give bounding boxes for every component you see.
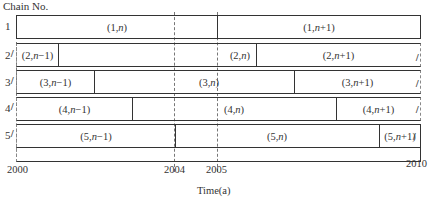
segment-3-n-minus-1: (3,n−1) — [17, 71, 94, 93]
chain-number-3: 3 — [5, 76, 15, 88]
tick-2004: 2004 — [164, 164, 185, 175]
chain-number-2: 2 — [5, 49, 15, 61]
chain-row-2: (2,n−1) (2,n) (2,n+1) — [16, 43, 421, 67]
chain-row-5: (5,n−1) (5,n) (5,n+1) — [16, 124, 421, 148]
segment-5-n-minus-1: (5,n−1) — [17, 125, 175, 147]
segment-3-n-plus-1: (3,n+1) — [294, 71, 421, 93]
diagram-title: Chain No. — [3, 0, 48, 12]
chain-number-5: 5 — [5, 129, 15, 141]
segment-5-n: (5,n) — [175, 125, 379, 147]
timeline-frame — [16, 148, 421, 162]
segment-2-n-minus-1: (2,n−1) — [17, 44, 58, 66]
segment-3-n: (3,n) — [94, 71, 294, 93]
segment-1-n-plus-1: (1,n+1) — [217, 16, 421, 38]
segment-4-n-plus-1: (4,n+1) — [336, 98, 421, 120]
chain-row-4: (4,n−1) (4,n) (4,n+1) — [16, 97, 421, 121]
chain-row-3: (3,n−1) (3,n) (3,n+1) — [16, 70, 421, 94]
segment-2-n: (2,n) — [58, 44, 256, 66]
segment-4-n: (4,n) — [132, 98, 336, 120]
segment-5-n-plus-1: (5,n+1) — [379, 125, 421, 147]
tick-2010: 2010 — [406, 158, 427, 169]
tick-2005: 2005 — [206, 164, 227, 175]
chain-number-1: 1 — [5, 20, 15, 32]
chain-row-1: (1,n) (1,n+1) — [16, 15, 421, 39]
chain-number-4: 4 — [5, 102, 15, 114]
x-axis-title: Time(a) — [197, 185, 230, 196]
segment-4-n-minus-1: (4,n−1) — [17, 98, 132, 120]
segment-2-n-plus-1: (2,n+1) — [256, 44, 421, 66]
segment-1-n: (1,n) — [17, 16, 217, 38]
tick-2000: 2000 — [7, 164, 28, 175]
